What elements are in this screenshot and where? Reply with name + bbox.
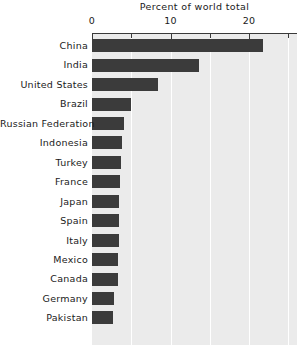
- bar-row: [92, 114, 297, 133]
- bar: [92, 175, 120, 188]
- y-axis-labels: ChinaIndiaUnited StatesBrazilRussian Fed…: [0, 34, 88, 345]
- bar-row: [92, 231, 297, 250]
- bar-row: [92, 55, 297, 74]
- y-axis-label: Germany: [0, 289, 88, 308]
- x-tick: [171, 34, 172, 39]
- x-tick: [249, 34, 250, 39]
- bar: [92, 195, 119, 208]
- x-tick: [288, 34, 289, 38]
- bar: [92, 117, 124, 130]
- bar-row: [92, 289, 297, 308]
- bar: [92, 292, 114, 305]
- y-axis-label: Turkey: [0, 153, 88, 172]
- y-axis-label: Mexico: [0, 250, 88, 269]
- bar-row: [92, 75, 297, 94]
- bar: [92, 156, 121, 169]
- bar-chart: Percent of world total 01020 ChinaIndiaU…: [0, 0, 308, 346]
- x-tick-label: 0: [89, 15, 95, 26]
- bar: [92, 59, 199, 72]
- y-axis-label: United States: [0, 75, 88, 94]
- x-tick: [92, 34, 93, 39]
- y-axis-label: Indonesia: [0, 133, 88, 152]
- x-axis-line: [92, 33, 297, 34]
- x-tick-label: 20: [243, 15, 256, 26]
- bar-row: [92, 153, 297, 172]
- bar-series: [92, 34, 297, 345]
- bar: [92, 39, 263, 52]
- bar: [92, 136, 122, 149]
- y-axis-label: Japan: [0, 192, 88, 211]
- chart-title: Percent of world total: [92, 1, 297, 12]
- bar-row: [92, 94, 297, 113]
- bar-row: [92, 308, 297, 327]
- bar: [92, 78, 158, 91]
- bar-row: [92, 250, 297, 269]
- bar: [92, 98, 131, 111]
- bar-row: [92, 36, 297, 55]
- y-axis-label: Russian Federation: [0, 114, 88, 133]
- bar-row: [92, 192, 297, 211]
- bar-row: [92, 211, 297, 230]
- bar: [92, 253, 118, 266]
- y-axis-label: France: [0, 172, 88, 191]
- bar-row: [92, 172, 297, 191]
- bar: [92, 311, 113, 324]
- y-axis-label: India: [0, 55, 88, 74]
- y-axis-label: Italy: [0, 231, 88, 250]
- y-axis-label: Pakistan: [0, 308, 88, 327]
- x-tick-label: 10: [164, 15, 177, 26]
- bar-row: [92, 133, 297, 152]
- bar-row: [92, 269, 297, 288]
- bar: [92, 273, 118, 286]
- plot-area: [92, 34, 297, 345]
- bar: [92, 234, 119, 247]
- x-tick: [131, 34, 132, 38]
- y-axis-label: Canada: [0, 269, 88, 288]
- bar: [92, 214, 119, 227]
- y-axis-label: Spain: [0, 211, 88, 230]
- y-axis-label: China: [0, 36, 88, 55]
- y-axis-label: Brazil: [0, 94, 88, 113]
- x-tick: [210, 34, 211, 38]
